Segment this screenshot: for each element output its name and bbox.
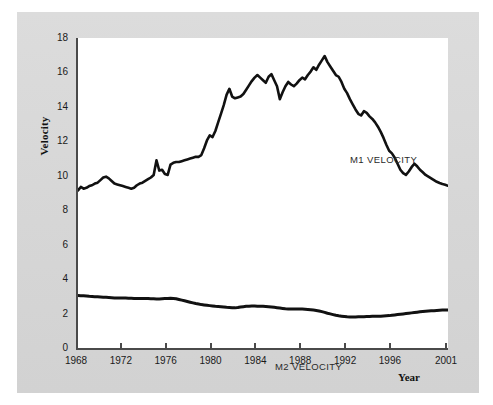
x-tick-label: 1968 <box>56 355 96 366</box>
y-tick-label: 14 <box>46 101 68 112</box>
x-tick-label: 1988 <box>280 355 320 366</box>
y-tick-label: 10 <box>46 170 68 181</box>
y-tick-label: 0 <box>46 342 68 353</box>
chart-canvas: Velocity 024681012141618 M1 VELOCITY M2 … <box>0 0 493 405</box>
y-tick-label: 18 <box>46 32 68 43</box>
y-tick-label: 12 <box>46 135 68 146</box>
y-tick-label: 8 <box>46 204 68 215</box>
x-axis-title: Year <box>398 371 420 383</box>
y-tick-label: 16 <box>46 66 68 77</box>
series-label-m1: M1 VELOCITY <box>350 154 417 165</box>
y-tick-label: 2 <box>46 308 68 319</box>
x-tick-label: 1984 <box>235 355 275 366</box>
x-tick-mark <box>299 343 301 348</box>
y-tick-label: 4 <box>46 273 68 284</box>
x-tick-mark <box>165 343 167 348</box>
x-tick-label: 1980 <box>191 355 231 366</box>
x-tick-mark <box>210 343 212 348</box>
series-line-m1 <box>78 56 448 190</box>
y-tick-label: 6 <box>46 239 68 250</box>
x-tick-mark <box>344 343 346 348</box>
x-tick-label: 1996 <box>370 355 410 366</box>
x-tick-label: 1972 <box>101 355 141 366</box>
x-tick-label: 2001 <box>426 355 466 366</box>
plot-area: M1 VELOCITY M2 VELOCITY <box>76 38 448 350</box>
x-tick-mark <box>254 343 256 348</box>
x-tick-mark <box>120 343 122 348</box>
x-tick-mark <box>445 343 447 348</box>
series-line-m2 <box>78 295 448 317</box>
x-tick-label: 1992 <box>325 355 365 366</box>
series-svg <box>78 38 448 348</box>
x-tick-mark <box>389 343 391 348</box>
x-tick-label: 1976 <box>146 355 186 366</box>
